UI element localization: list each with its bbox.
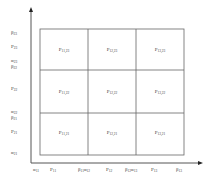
x-label-alpha-11: α11 — [33, 167, 39, 174]
x-label-p-13: P13 — [151, 167, 157, 174]
x-axis-arrowhead-icon — [198, 161, 203, 165]
cell-p-13-21: P13,21 — [155, 130, 166, 137]
cell-p-13-22: P13,22 — [155, 89, 166, 96]
x-label-beta-11-alpha-12: β11α12 — [78, 167, 90, 174]
y-label-beta-21: β21 — [11, 115, 17, 122]
x-label-p-12: P12 — [106, 167, 112, 174]
y-label-p-23: P23 — [11, 44, 17, 51]
cell-p-11-22: P11,22 — [59, 89, 70, 96]
cell-p-12-22: P12,22 — [107, 89, 118, 96]
y-label-p-21: P21 — [11, 129, 17, 136]
cell-p-13-23: P13,23 — [155, 47, 166, 54]
y-label-beta-22: β22 — [11, 64, 17, 71]
x-label-beta-12-alpha-13: β12α13 — [125, 167, 137, 174]
cell-p-11-23: P11,23 — [59, 47, 70, 54]
x-label-beta-13: β13 — [176, 167, 182, 174]
y-axis-arrowhead-icon — [29, 7, 33, 12]
cell-p-11-21: P11,21 — [59, 130, 70, 137]
y-label-p-22: P22 — [11, 86, 17, 93]
y-label-beta-23: β23 — [11, 30, 17, 37]
y-label-alpha-21: α21 — [11, 150, 17, 157]
cell-p-12-21: P12,21 — [107, 130, 118, 137]
cell-p-12-23: P12,23 — [107, 47, 118, 54]
x-label-p-11: P11 — [50, 167, 56, 174]
